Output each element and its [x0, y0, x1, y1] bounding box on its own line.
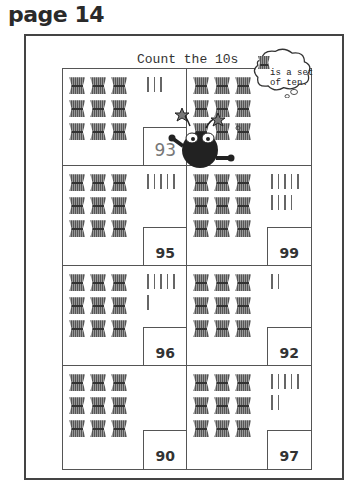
bundle-of-ten-icon: [69, 174, 85, 191]
tally-mark: [271, 374, 273, 389]
ones-tallies: [271, 174, 311, 216]
bundle-of-ten-icon: [69, 320, 85, 337]
bundle-of-ten-icon: [69, 197, 85, 214]
tens-bundles: [69, 374, 127, 437]
answer-box[interactable]: 92: [267, 327, 312, 367]
tens-bundles: [193, 174, 251, 237]
bundle-of-ten-icon: [235, 197, 251, 214]
tens-bundles: [193, 274, 251, 337]
bundle-of-ten-icon: [90, 297, 106, 314]
bundle-of-ten-icon: [111, 123, 127, 140]
monster-character-icon: [168, 108, 248, 178]
tally-mark: [271, 174, 273, 189]
answer-box[interactable]: 99: [267, 227, 312, 267]
bundle-of-ten-icon: [69, 420, 85, 437]
tally-mark: [278, 195, 280, 210]
bundle-of-ten-icon: [90, 100, 106, 117]
tens-bundles: [69, 174, 127, 237]
tally-mark: [291, 174, 293, 189]
bundle-of-ten-icon: [214, 274, 230, 291]
hint-text: is a set of ten.: [270, 68, 313, 88]
bundle-of-ten-icon: [235, 397, 251, 414]
bundle-of-ten-icon: [235, 274, 251, 291]
tally-mark: [167, 274, 169, 289]
bundle-of-ten-icon: [193, 274, 209, 291]
worksheet-title: Count the 10s: [137, 52, 238, 67]
ones-tallies: [147, 77, 187, 98]
bundle-of-ten-icon: [69, 297, 85, 314]
bundle-of-ten-icon: [111, 220, 127, 237]
bundle-of-ten-icon: [193, 220, 209, 237]
tally-mark: [147, 295, 149, 310]
bundle-of-ten-icon: [90, 123, 106, 140]
bundle-of-ten-icon: [69, 100, 85, 117]
tally-mark: [278, 174, 280, 189]
tally-mark: [291, 374, 293, 389]
bundle-of-ten-icon: [90, 77, 106, 94]
bundle-of-ten-icon: [69, 220, 85, 237]
tally-mark: [297, 374, 299, 389]
bundle-of-ten-icon: [69, 77, 85, 94]
bundle-of-ten-icon: [235, 420, 251, 437]
answer-box[interactable]: 96: [143, 327, 188, 367]
counting-cell: 90: [62, 365, 188, 470]
tally-mark: [154, 77, 156, 92]
ones-tallies: [271, 374, 311, 416]
tally-mark: [173, 274, 175, 289]
bundle-of-ten-icon: [214, 197, 230, 214]
tally-mark: [147, 274, 149, 289]
bundle-of-ten-icon: [111, 297, 127, 314]
bundle-of-ten-icon: [90, 174, 106, 191]
bundle-of-ten-icon: [193, 374, 209, 391]
bundle-of-ten-icon: [193, 197, 209, 214]
tally-mark: [271, 274, 273, 289]
page-label: page 14: [8, 2, 104, 27]
tens-bundles: [69, 77, 127, 140]
bundle-of-ten-icon: [111, 420, 127, 437]
counting-cell: 99: [186, 165, 312, 267]
ones-tallies: [271, 274, 311, 295]
tally-mark: [284, 174, 286, 189]
answer-box[interactable]: 95: [143, 227, 188, 267]
bundle-of-ten-icon: [90, 374, 106, 391]
bundle-of-ten-icon: [193, 320, 209, 337]
tally-mark: [278, 274, 280, 289]
bundle-of-ten-icon: [235, 320, 251, 337]
bundle-of-ten-icon: [235, 297, 251, 314]
bundle-of-ten-icon: [90, 274, 106, 291]
bundle-of-ten-icon: [193, 77, 209, 94]
bundle-of-ten-icon: [69, 274, 85, 291]
bundle-of-ten-icon: [214, 374, 230, 391]
tally-mark: [297, 174, 299, 189]
bundle-of-ten-icon: [111, 100, 127, 117]
bundle-of-ten-icon: [214, 320, 230, 337]
tally-mark: [284, 374, 286, 389]
bundle-of-ten-icon: [235, 220, 251, 237]
tally-mark: [160, 274, 162, 289]
bundle-of-ten-icon: [111, 274, 127, 291]
bundle-of-ten-icon: [193, 297, 209, 314]
bundle-of-ten-icon: [90, 320, 106, 337]
bundle-of-ten-icon: [214, 220, 230, 237]
counting-cell: 96: [62, 265, 188, 367]
tally-mark: [154, 174, 156, 189]
tens-bundles: [193, 374, 251, 437]
tally-mark: [278, 395, 280, 410]
bundle-of-ten-icon: [111, 197, 127, 214]
bundle-of-ten-icon: [90, 397, 106, 414]
answer-box[interactable]: 90: [143, 430, 188, 470]
bundle-of-ten-icon: [214, 297, 230, 314]
tally-mark: [271, 395, 273, 410]
tally-mark: [271, 195, 273, 210]
bundle-of-ten-icon: [111, 174, 127, 191]
bundle-of-ten-icon: [214, 397, 230, 414]
counting-cell: 92: [186, 265, 312, 367]
tally-mark: [147, 174, 149, 189]
bundle-of-ten-icon: [69, 397, 85, 414]
bundle-of-ten-icon: [193, 397, 209, 414]
answer-box[interactable]: 97: [267, 430, 312, 470]
tally-mark: [291, 195, 293, 210]
bundle-of-ten-icon: [235, 374, 251, 391]
tally-mark: [147, 77, 149, 92]
tally-mark: [160, 174, 162, 189]
